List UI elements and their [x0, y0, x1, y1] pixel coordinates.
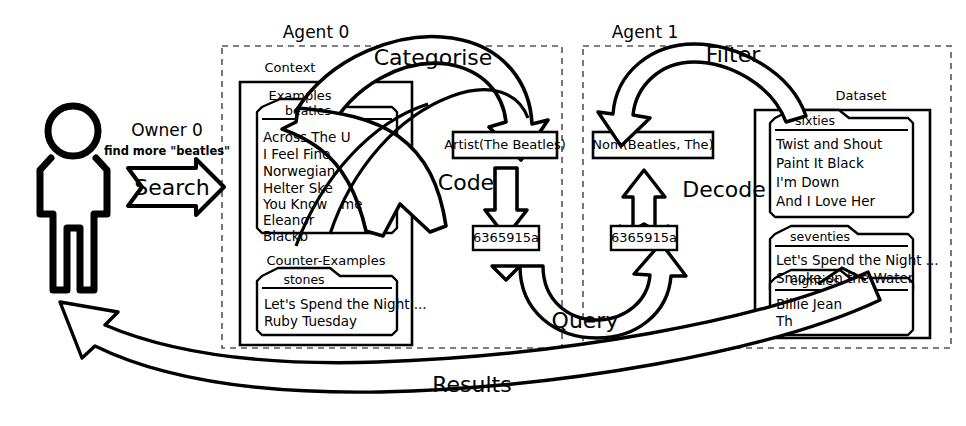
dataset-label: Dataset — [836, 88, 887, 103]
examples-tab-label: beatles — [285, 103, 331, 118]
results-label: Results — [432, 372, 511, 397]
counter-examples-label: Counter-Examples — [267, 253, 386, 268]
diagram-canvas: Owner 0 find more "beatles" Search Agent… — [0, 0, 966, 426]
code-label: Code — [438, 170, 494, 195]
examples-item: Blackb — [263, 228, 308, 245]
owner-request-text: find more "beatles" — [104, 144, 230, 158]
owner-label: Owner 0 — [131, 120, 203, 140]
examples-item: I Feel Fine — [263, 146, 330, 163]
dataset-tab-seventies: seventies — [790, 229, 850, 244]
dataset-item: I'm Down — [776, 174, 839, 191]
dataset-item: Th — [776, 313, 793, 330]
examples-item-fragment: me — [341, 196, 362, 213]
agent1-hash-label: 6365915a — [611, 230, 677, 245]
dataset-tab-eighties: eighties — [790, 273, 840, 288]
context-label: Context — [265, 60, 316, 75]
agent0-hash-label: 6365915a — [473, 230, 539, 245]
dataset-item: Paint It Black — [776, 155, 864, 172]
search-arrow-label: Search — [134, 175, 210, 200]
agent1-title: Agent 1 — [612, 22, 679, 42]
person-figure — [40, 106, 107, 290]
counter-example-item: Let's Spend the Night ... — [264, 296, 427, 313]
dataset-item: Billie Jean — [776, 296, 842, 313]
dataset-tab-sixties: sixties — [795, 113, 835, 128]
examples-item: Norwegian — [263, 163, 335, 180]
artist-box-label: Artist(The Beatles) — [444, 137, 566, 152]
categorise-label: Categorise — [374, 45, 493, 70]
filter-label: Filter — [706, 42, 760, 67]
decode-label: Decode — [682, 177, 766, 202]
agent0-title: Agent 0 — [283, 22, 350, 42]
dataset-item: Twist and Shout — [776, 136, 882, 153]
counter-example-item: Ruby Tuesday — [264, 313, 357, 330]
dataset-item: And I Love Her — [776, 193, 875, 210]
examples-item: Eleanor — [263, 212, 314, 229]
examples-item: Across The U — [263, 129, 351, 146]
counter-examples-tab-label: stones — [283, 272, 324, 287]
nom-box-label: Nom(Beatles, The) — [592, 137, 713, 152]
examples-item: You Know — [263, 196, 327, 213]
query-label: Query — [552, 308, 619, 333]
dataset-item: Let's Spend the Night ... — [776, 252, 939, 269]
examples-item: Helter Ske — [263, 180, 333, 197]
examples-label: Examples — [268, 88, 331, 103]
